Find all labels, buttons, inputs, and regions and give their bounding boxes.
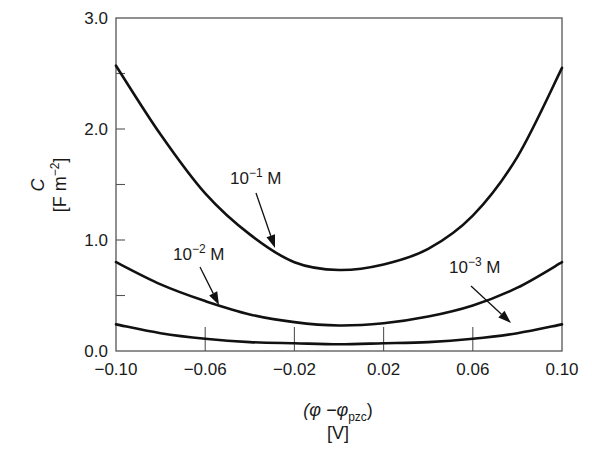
x-tick-label: −0.06 [184,360,227,379]
arrow-line [471,286,501,314]
curve-10e-3-m [116,324,562,344]
y-tick-label: 1.0 [84,231,108,250]
curve-annotations: 10−1 M10−2 M10−3 M [173,166,511,323]
x-axis-title-expression: (φ −φpzc) [303,400,373,424]
x-tick-label: 0.02 [367,360,400,379]
curve-label: 10−3 M [449,255,501,277]
y-tick-label: 2.0 [84,120,108,139]
x-tick-label: 0.06 [456,360,489,379]
curve-label: 10−1 M [230,166,282,188]
y-tick-label: 0.0 [84,342,108,361]
y-axis-title-symbol: C [28,178,48,192]
axis-ticks: −0.10−0.06−0.020.020.060.100.01.02.03.0 [84,9,578,379]
plot-area-border [116,18,562,351]
x-axis-title-unit: [V] [327,423,349,443]
capacitance-chart: −0.10−0.06−0.020.020.060.100.01.02.03.0 … [0,0,592,462]
x-tick-label: −0.10 [94,360,137,379]
arrow-line [200,267,213,293]
curve-10e-1-m [116,66,562,270]
x-tick-label: 0.10 [545,360,578,379]
arrow-line [256,193,271,236]
plot-frame [116,18,562,351]
y-tick-label: 3.0 [84,9,108,28]
x-axis-title: (φ −φpzc) [V] [303,400,373,443]
y-axis-title-unit: [F m−2] [48,158,70,213]
data-curves [116,66,562,345]
x-tick-label: −0.02 [273,360,316,379]
curve-label: 10−2 M [173,242,225,264]
y-axis-title: C [F m−2] [28,158,70,213]
